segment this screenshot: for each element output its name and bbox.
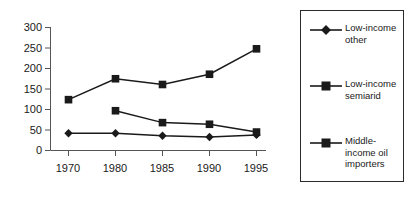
legend-item-middle-income-oil-importers: Middle- income oil importers bbox=[309, 135, 388, 170]
y-tick-label: 200 bbox=[24, 62, 42, 74]
y-tick-label: 100 bbox=[24, 103, 42, 115]
y-axis-ticks bbox=[45, 28, 51, 151]
square-marker-icon bbox=[253, 45, 261, 53]
square-marker-icon bbox=[159, 119, 167, 127]
line-chart-figure: 300 250 200 150 100 50 0 1970 1980 1985 bbox=[0, 0, 419, 198]
series-line bbox=[116, 111, 257, 132]
x-axis-tick-labels: 1970 1980 1985 1990 1995 bbox=[56, 162, 268, 174]
square-marker-icon bbox=[206, 70, 214, 78]
legend-item-label: Low-income other bbox=[345, 22, 396, 45]
y-axis-tick-labels: 300 250 200 150 100 50 0 bbox=[24, 21, 42, 156]
x-tick-label: 1970 bbox=[56, 162, 80, 174]
plot-area: 300 250 200 150 100 50 0 1970 1980 1985 bbox=[0, 0, 290, 198]
square-marker-icon bbox=[159, 81, 167, 89]
series-3 bbox=[65, 45, 261, 103]
x-tick-label: 1990 bbox=[197, 162, 221, 174]
square-marker-icon bbox=[112, 107, 120, 115]
diamond-marker-icon bbox=[111, 129, 119, 137]
y-tick-label: 50 bbox=[30, 124, 42, 136]
diamond-marker-icon bbox=[309, 23, 343, 37]
legend-item-low-income-semiarid: Low-income semiarid bbox=[309, 78, 396, 101]
diamond-marker-icon bbox=[205, 133, 213, 141]
series-line bbox=[69, 49, 257, 100]
diamond-marker-icon bbox=[64, 129, 72, 137]
square-marker-icon bbox=[309, 79, 343, 93]
square-marker-icon bbox=[65, 96, 73, 104]
chart-legend: Low-income other Low-income semiarid Mid… bbox=[300, 10, 404, 182]
series-2 bbox=[112, 107, 261, 136]
legend-item-label: Middle- income oil importers bbox=[345, 135, 388, 170]
series-1 bbox=[64, 129, 260, 141]
legend-item-low-income-other: Low-income other bbox=[309, 22, 396, 45]
square-marker-icon bbox=[206, 120, 214, 128]
square-marker-icon bbox=[112, 75, 120, 83]
x-axis-ticks bbox=[69, 151, 257, 157]
chart-svg: 300 250 200 150 100 50 0 1970 1980 1985 bbox=[0, 0, 290, 198]
x-tick-label: 1995 bbox=[244, 162, 268, 174]
y-tick-label: 150 bbox=[24, 83, 42, 95]
legend-item-label: Low-income semiarid bbox=[345, 78, 396, 101]
series-layer bbox=[64, 45, 260, 141]
square-marker-icon bbox=[309, 136, 343, 150]
y-tick-label: 300 bbox=[24, 21, 42, 33]
x-tick-label: 1980 bbox=[103, 162, 127, 174]
square-marker-icon bbox=[253, 128, 261, 136]
x-tick-label: 1985 bbox=[150, 162, 174, 174]
y-tick-label: 250 bbox=[24, 42, 42, 54]
y-tick-label: 0 bbox=[36, 144, 42, 156]
diamond-marker-icon bbox=[158, 132, 166, 140]
